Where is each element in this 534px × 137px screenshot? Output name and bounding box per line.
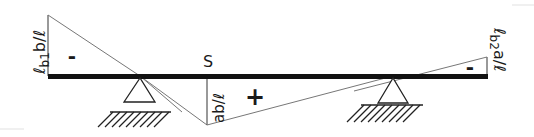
right-ordinate-label: ℓb2a/ℓ xyxy=(487,27,509,72)
left-ordinate-rest: b/ℓ xyxy=(30,30,49,52)
section-label-s: S xyxy=(203,52,213,71)
right-ordinate-rest: a/ℓ xyxy=(490,50,509,72)
right-sign-minus: - xyxy=(466,55,474,79)
positive-region xyxy=(140,76,393,125)
left-ground-hatching xyxy=(98,112,169,127)
beam xyxy=(48,74,488,79)
bottom-left-edge-artifact xyxy=(0,128,24,130)
left-support xyxy=(98,78,171,127)
middle-sign-plus: + xyxy=(245,83,265,111)
influence-line-diagram: - + - S ℓb1b/ℓ ab/ℓ ℓb2a/ℓ xyxy=(0,0,534,137)
right-ordinate-subscript: b2 xyxy=(487,35,501,50)
svg-text:ℓb1b/ℓ: ℓb1b/ℓ xyxy=(30,30,52,75)
left-ordinate-label: ℓb1b/ℓ xyxy=(30,30,52,75)
mid-ordinate-label: ab/ℓ xyxy=(210,93,228,123)
right-ordinate-script-l: ℓ xyxy=(490,27,509,35)
left-negative-region xyxy=(48,15,140,76)
top-right-edge-artifact xyxy=(512,4,534,6)
left-ordinate-subscript: b1 xyxy=(38,52,52,67)
left-ordinate-script-l: ℓ xyxy=(30,67,49,75)
mid-ordinate-text: ab/ℓ xyxy=(210,93,228,123)
right-ground-hatching xyxy=(347,105,420,122)
left-sign-minus: - xyxy=(68,44,76,68)
svg-text:ℓb2a/ℓ: ℓb2a/ℓ xyxy=(487,27,509,72)
